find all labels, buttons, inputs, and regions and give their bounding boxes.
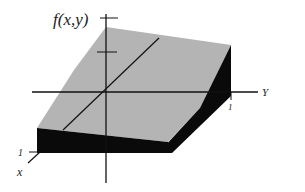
x-tick-label: 1 [18,147,23,158]
z-axis-label: f(x,y) [53,10,89,29]
y-axis-label: Y [262,86,270,98]
x-axis-label: x [16,165,23,179]
y-tick-label: 1 [228,102,233,112]
3d-surface-plot: f(x,y) Y 1 1 x [0,0,305,192]
surface-top-face [37,27,231,142]
x-axis-lower [28,152,40,163]
